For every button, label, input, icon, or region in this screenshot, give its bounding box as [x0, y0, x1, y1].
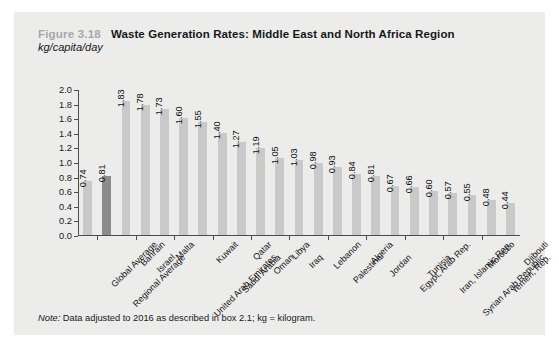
bar-value-label: 0.93 [328, 155, 337, 173]
y-axis-tick-label: 0.8 [59, 173, 72, 183]
x-axis-category-label: Iraq [307, 253, 324, 270]
y-axis-tick-label: 1.2 [59, 143, 72, 153]
bar-value-label: 0.98 [309, 152, 318, 170]
y-axis-tick [74, 90, 78, 91]
bar: 0.81 [102, 176, 111, 235]
x-axis-tick [289, 236, 290, 240]
bar: 0.67 [391, 186, 400, 235]
y-axis-line [78, 90, 79, 236]
chart-axes: 0.00.20.40.60.81.01.21.41.61.82.0 0.740.… [78, 90, 520, 236]
note-prefix: Note: [38, 313, 60, 323]
x-axis-tick [405, 236, 406, 240]
x-axis-tick [328, 236, 329, 240]
bar-value-label: 0.60 [424, 179, 433, 197]
bar-value-label: 0.81 [367, 164, 376, 182]
bar: 0.44 [506, 203, 515, 235]
bar-value-label: 0.74 [78, 169, 87, 187]
x-axis-category-label: Lebanon [332, 240, 363, 271]
y-axis-tick-label: 2.0 [59, 85, 72, 95]
bar-value-label: 0.48 [482, 188, 491, 206]
bar-value-label: 0.67 [386, 174, 395, 192]
y-axis-tick [74, 192, 78, 193]
bar-value-label: 1.27 [232, 130, 241, 148]
bar: 0.60 [429, 191, 438, 235]
bar-value-label: 0.44 [501, 191, 510, 209]
bar-value-label: 0.84 [347, 162, 356, 180]
bar-value-label: 0.55 [463, 183, 472, 201]
bar: 0.57 [448, 193, 457, 235]
bar: 0.93 [333, 167, 342, 235]
y-axis-tick-label: 0.0 [59, 231, 72, 241]
y-axis-tick-label: 0.6 [59, 187, 72, 197]
y-axis-tick-label: 1.4 [59, 129, 72, 139]
bar-value-label: 1.40 [213, 121, 222, 139]
bar: 0.81 [371, 176, 380, 235]
x-axis-category-label: Algeria [369, 240, 395, 266]
bar: 0.74 [83, 181, 92, 235]
y-axis-tick [74, 148, 78, 149]
x-axis-line [78, 235, 520, 236]
bar: 0.55 [468, 195, 477, 235]
bar: 1.73 [160, 109, 169, 235]
bar-value-label: 1.60 [174, 106, 183, 124]
x-axis-tick [213, 236, 214, 240]
y-axis-tick [74, 221, 78, 222]
bar-value-label: 0.81 [98, 164, 107, 182]
y-axis-tick [74, 236, 78, 237]
figure-note: Note: Data adjusted to 2016 as described… [38, 313, 315, 323]
x-axis-tick [482, 236, 483, 240]
x-axis-category-label: Kuwait [215, 240, 240, 265]
y-axis-tick [74, 119, 78, 120]
y-axis-tick-label: 1.8 [59, 100, 72, 110]
y-axis-tick-label: 1.0 [59, 158, 72, 168]
bar-value-label: 1.73 [155, 97, 164, 115]
note-text: Data adjusted to 2016 as described in bo… [60, 313, 315, 323]
bar-value-label: 1.83 [117, 89, 126, 107]
bar-value-label: 1.55 [194, 110, 203, 128]
bar: 0.98 [314, 163, 323, 235]
chart-plot-area: 0.00.20.40.60.81.01.21.41.61.82.0 0.740.… [50, 90, 520, 236]
bar: 1.27 [237, 142, 246, 235]
bar: 0.66 [410, 187, 419, 235]
x-axis-tick [251, 236, 252, 240]
x-axis-tick [366, 236, 367, 240]
y-axis-tick [74, 163, 78, 164]
page-title: Waste Generation Rates: Middle East and … [111, 28, 455, 40]
bar-value-label: 1.78 [136, 93, 145, 111]
bar-value-label: 0.57 [444, 181, 453, 199]
x-axis-tick [443, 236, 444, 240]
bar: 1.55 [198, 122, 207, 235]
bar: 0.84 [352, 174, 361, 235]
y-axis-tick-label: 1.6 [59, 114, 72, 124]
y-axis-tick-label: 0.2 [59, 216, 72, 226]
bar: 1.05 [275, 158, 284, 235]
x-axis-category-label: Libya [290, 240, 311, 261]
bar: 1.03 [295, 160, 304, 235]
y-axis-tick [74, 134, 78, 135]
y-axis-tick [74, 207, 78, 208]
figure-heading: Figure 3.18Waste Generation Rates: Middl… [38, 24, 455, 42]
bar: 1.60 [179, 118, 188, 235]
figure-panel: Figure 3.18Waste Generation Rates: Middl… [14, 12, 545, 335]
x-axis-tick [174, 236, 175, 240]
bar: 1.78 [141, 105, 150, 235]
bar: 1.83 [122, 101, 131, 235]
bar-value-label: 1.19 [251, 136, 260, 154]
x-axis-tick [97, 236, 98, 240]
bar-value-label: 0.66 [405, 175, 414, 193]
figure-number: Figure 3.18 [38, 28, 101, 40]
x-axis-category-label: Jordan [388, 253, 413, 278]
y-axis-tick-label: 0.4 [59, 202, 72, 212]
bar: 0.48 [487, 200, 496, 235]
y-axis-tick [74, 105, 78, 106]
bar-value-label: 1.05 [271, 146, 280, 164]
figure-subtitle: kg/capita/day [38, 41, 103, 53]
bar-value-label: 1.03 [290, 148, 299, 166]
x-axis-tick [136, 236, 137, 240]
bar: 1.19 [256, 148, 265, 235]
bar: 1.40 [218, 133, 227, 235]
